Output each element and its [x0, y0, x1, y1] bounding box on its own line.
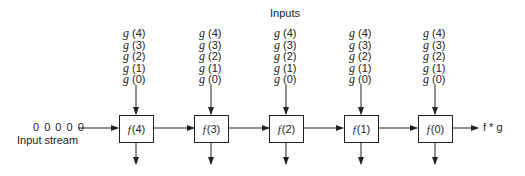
- g-index: (3): [432, 39, 445, 51]
- f-symbol: f: [427, 123, 430, 135]
- g-symbol: g: [199, 72, 205, 86]
- g-inputs-column-1: g (4) g (3) g (2) g (1) g (0): [123, 28, 146, 86]
- g-index: (1): [132, 62, 145, 74]
- g-index: (2): [283, 50, 296, 62]
- f-symbol: f: [128, 123, 131, 135]
- g-inputs-column-3: g (4) g (3) g (2) g (1) g (0): [274, 28, 297, 86]
- g-index: (4): [132, 27, 145, 39]
- f-symbol: f: [203, 123, 206, 135]
- g-symbol: g: [274, 72, 280, 86]
- g-index: (4): [358, 27, 371, 39]
- cell-f2: f(2): [269, 115, 304, 143]
- f-symbol: f: [353, 123, 356, 135]
- output-label: f * g: [483, 122, 503, 134]
- cell-f4: f(4): [119, 115, 154, 143]
- inputs-title: Inputs: [270, 8, 300, 20]
- g-index: (1): [358, 62, 371, 74]
- g-index: (2): [358, 50, 371, 62]
- g-inputs-column-4: g (4) g (3) g (2) g (1) g (0): [349, 28, 372, 86]
- input-stream-values: 0 0 0 0 0: [33, 122, 85, 134]
- g-index: (1): [432, 62, 445, 74]
- f-symbol: f: [278, 123, 281, 135]
- cell-arg: (0): [431, 123, 444, 135]
- g-index: (3): [132, 39, 145, 51]
- input-stream-label: Input stream: [17, 135, 78, 147]
- g-index: (4): [208, 27, 221, 39]
- cell-arg: (2): [282, 123, 295, 135]
- g-index: (2): [132, 50, 145, 62]
- g-index: (3): [358, 39, 371, 51]
- cell-arg: (1): [357, 123, 370, 135]
- cell-arg: (4): [132, 123, 145, 135]
- g-index: (2): [432, 50, 445, 62]
- cell-f0: f(0): [418, 115, 453, 143]
- cell-f3: f(3): [194, 115, 229, 143]
- g-index: (1): [283, 62, 296, 74]
- g-inputs-column-2: g (4) g (3) g (2) g (1) g (0): [199, 28, 222, 86]
- g-index: (0): [132, 73, 145, 85]
- g-inputs-column-5: g (4) g (3) g (2) g (1) g (0): [423, 28, 446, 86]
- connector-lines: [0, 0, 525, 176]
- g-symbol: g: [123, 72, 129, 86]
- cell-arg: (3): [207, 123, 220, 135]
- g-index: (4): [432, 27, 445, 39]
- g-symbol: g: [423, 72, 429, 86]
- g-index: (3): [208, 39, 221, 51]
- g-index: (0): [283, 73, 296, 85]
- cell-f1: f(1): [344, 115, 379, 143]
- g-index: (0): [208, 73, 221, 85]
- g-symbol: g: [349, 72, 355, 86]
- g-index: (0): [432, 73, 445, 85]
- g-index: (2): [208, 50, 221, 62]
- g-index: (3): [283, 39, 296, 51]
- g-index: (1): [208, 62, 221, 74]
- g-index: (4): [283, 27, 296, 39]
- g-index: (0): [358, 73, 371, 85]
